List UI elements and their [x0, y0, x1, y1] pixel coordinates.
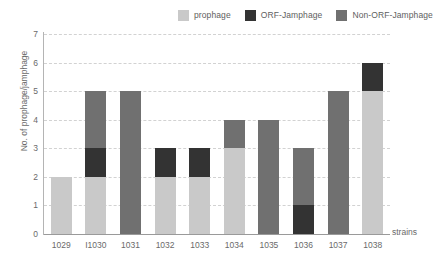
- bar-segment[interactable]: [155, 148, 176, 177]
- square-swatch-icon: [336, 10, 347, 21]
- bar-group[interactable]: [224, 120, 245, 234]
- y-axis-tick-label: 3: [12, 143, 38, 153]
- bar-group[interactable]: [85, 91, 106, 234]
- bar-segment[interactable]: [224, 120, 245, 149]
- y-axis-tick-label: 0: [12, 229, 38, 239]
- y-axis-tick-label: 6: [12, 58, 38, 68]
- legend-item[interactable]: ORF-Jamphage: [245, 10, 323, 21]
- y-axis-tick-label: 7: [12, 29, 38, 39]
- legend-item[interactable]: Non-ORF-Jamphage: [336, 10, 433, 21]
- bar-segment[interactable]: [293, 205, 314, 234]
- bar-segment[interactable]: [362, 91, 383, 234]
- bar-segment[interactable]: [85, 91, 106, 148]
- bar-segment[interactable]: [85, 177, 106, 234]
- bar-segment[interactable]: [362, 63, 383, 92]
- square-swatch-icon: [245, 10, 256, 21]
- bar-group[interactable]: [362, 63, 383, 234]
- bar-segment[interactable]: [189, 177, 210, 234]
- x-axis-title: strains: [392, 227, 417, 237]
- bar-group[interactable]: [120, 91, 141, 234]
- bar-segment[interactable]: [120, 91, 141, 234]
- bar-group[interactable]: [328, 91, 349, 234]
- bar-group[interactable]: [258, 120, 279, 234]
- bar-segment[interactable]: [51, 177, 72, 234]
- axis-baseline: [44, 234, 390, 235]
- legend-item[interactable]: prophage: [178, 10, 231, 21]
- bar-segment[interactable]: [224, 148, 245, 234]
- bar-segment[interactable]: [258, 120, 279, 234]
- bar-group[interactable]: [293, 148, 314, 234]
- bar-group[interactable]: [189, 148, 210, 234]
- y-axis-tick-label: 1: [12, 200, 38, 210]
- x-axis-tick-label: 1038: [351, 240, 395, 250]
- y-axis-tick-label: 5: [12, 86, 38, 96]
- bar-segment[interactable]: [293, 148, 314, 205]
- bar-segment[interactable]: [328, 91, 349, 234]
- bar-group[interactable]: [155, 148, 176, 234]
- legend-item-label: Non-ORF-Jamphage: [352, 10, 433, 20]
- bar-segment[interactable]: [155, 177, 176, 234]
- plot-area: [44, 34, 390, 234]
- bar-segment[interactable]: [85, 148, 106, 177]
- y-axis-tick-label: 4: [12, 115, 38, 125]
- bar-segment[interactable]: [189, 148, 210, 177]
- bar-series-container: [44, 34, 390, 234]
- legend-item-label: prophage: [194, 10, 231, 20]
- bar-group[interactable]: [51, 177, 72, 234]
- y-axis-tick-label: 2: [12, 172, 38, 182]
- chart-legend: prophageORF-JamphageNon-ORF-Jamphage: [178, 7, 426, 23]
- square-swatch-icon: [178, 10, 189, 21]
- legend-item-label: ORF-Jamphage: [261, 10, 323, 20]
